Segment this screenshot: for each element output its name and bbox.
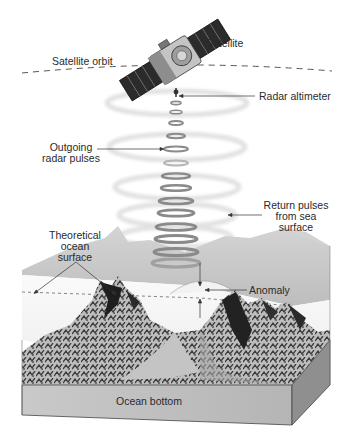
outgoing-label-line2: radar pulses	[42, 153, 100, 164]
radar-altimeter-label: Radar altimeter	[259, 91, 331, 102]
satellite-label: Satellite	[206, 38, 243, 49]
outgoing-radar-pulses-label: Outgoing radar pulses	[42, 142, 100, 164]
outgoing-radar-pulses	[152, 101, 200, 267]
return-label-line3: surface	[262, 222, 330, 233]
anomaly-label: Anomaly	[249, 285, 290, 296]
theoretical-label-line3: surface	[44, 252, 106, 263]
theoretical-ocean-surface-label: Theoretical ocean surface	[44, 230, 106, 263]
satellite-orbit-label: Satellite orbit	[52, 56, 113, 67]
ocean-bottom-label: Ocean bottom	[116, 396, 182, 407]
return-pulses-label: Return pulses from sea surface	[262, 200, 330, 233]
